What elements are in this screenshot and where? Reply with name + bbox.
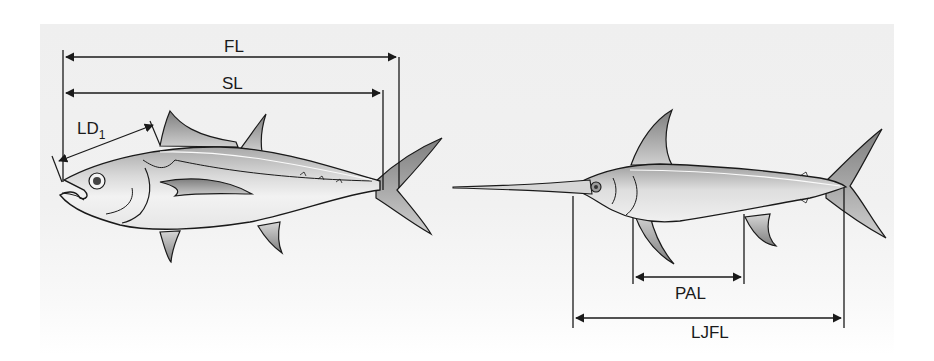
sl-label: SL: [222, 74, 243, 93]
pal-label: PAL: [675, 284, 706, 303]
ld-label-main: LD: [77, 119, 99, 138]
ld-label: LD1: [77, 119, 106, 142]
tuna-illustration: [60, 111, 442, 262]
fish-measurement-diagram: FL SL LD1 PAL LJFL: [0, 0, 934, 361]
fl-label: FL: [224, 37, 244, 56]
ld-label-subscript: 1: [99, 128, 106, 142]
ljfl-label: LJFL: [691, 323, 729, 342]
swordfish-illustration: [453, 110, 886, 264]
